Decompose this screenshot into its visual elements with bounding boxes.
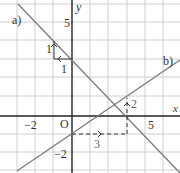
line-b-label: b): [163, 55, 173, 67]
x-axis-label: x: [173, 103, 178, 114]
slope-a-run: 1: [61, 63, 67, 75]
origin-label: O: [60, 118, 69, 130]
coordinate-plane: [0, 0, 180, 173]
slope-a-rise: 1: [46, 43, 52, 55]
line-a-label: a): [12, 14, 21, 26]
y-tick-neg2: −2: [54, 148, 67, 160]
x-tick-neg2: −2: [24, 119, 37, 131]
y-axis-label: y: [76, 1, 81, 13]
slope-triangle-a: [51, 41, 72, 62]
slope-b-rise: 2: [131, 98, 137, 110]
grid: [0, 0, 180, 173]
y-tick-5: 5: [64, 17, 70, 29]
slope-b-run: 3: [94, 138, 100, 150]
x-tick-5: 5: [148, 119, 154, 131]
